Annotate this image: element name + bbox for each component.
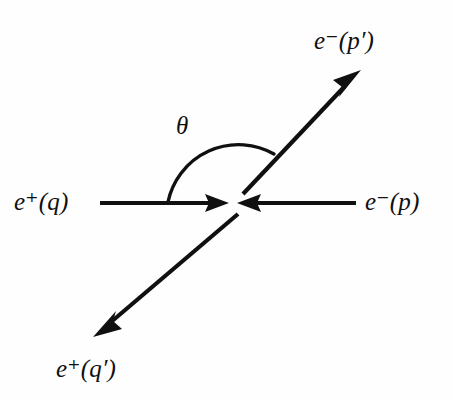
scattering-diagram: e⁺(q) e⁻(p) e⁻(p′) e⁺(q′) θ xyxy=(0,0,453,400)
outgoing-electron-arrow xyxy=(243,70,361,194)
label-incoming-electron: e⁻(p) xyxy=(365,189,419,214)
outgoing-positron-arrow xyxy=(93,214,238,337)
outgoing-electron-line xyxy=(243,86,345,194)
incoming-positron-arrow xyxy=(100,194,229,212)
label-outgoing-positron: e⁺(q′) xyxy=(56,356,116,381)
outgoing-positron-line xyxy=(111,214,238,322)
scattering-angle-arc xyxy=(168,145,274,202)
label-incoming-positron: e⁺(q) xyxy=(14,189,68,214)
incoming-electron-arrow xyxy=(237,194,356,212)
label-outgoing-electron: e⁻(p′) xyxy=(314,28,374,53)
label-scattering-angle: θ xyxy=(176,113,188,138)
